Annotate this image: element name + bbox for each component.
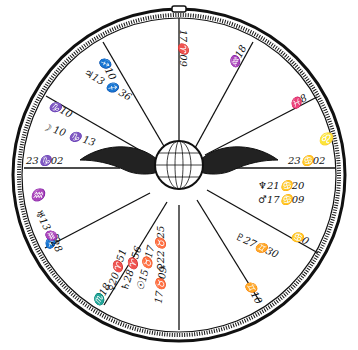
planet-mars: ♂17♋09 (258, 194, 304, 205)
cusp-left: 23♑02 (26, 155, 63, 166)
planet-neptune: ♆21♋20 (258, 180, 304, 191)
leo-glyph-icon: ♌ (318, 132, 333, 146)
aquarius-glyph-icon: ♒ (30, 188, 45, 202)
cusp-right: 23♋02 (288, 155, 325, 166)
cusp-top: 17♈09 (178, 30, 189, 67)
